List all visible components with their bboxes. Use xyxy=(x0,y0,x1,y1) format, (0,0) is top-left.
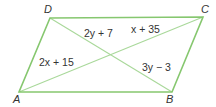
segment-label-CE: x + 35 xyxy=(131,23,160,35)
segment-label-AE: 2x + 15 xyxy=(39,56,74,68)
vertex-label-C: C xyxy=(201,3,209,15)
segment-label-BE: 3y − 3 xyxy=(142,61,171,73)
vertex-label-B: B xyxy=(166,93,173,105)
vertex-label-D: D xyxy=(44,3,52,15)
parallelogram-diagram: A B C D 2y + 7 x + 35 2x + 15 3y − 3 xyxy=(0,0,216,107)
vertex-label-A: A xyxy=(12,93,20,105)
segment-label-DE: 2y + 7 xyxy=(84,27,113,39)
